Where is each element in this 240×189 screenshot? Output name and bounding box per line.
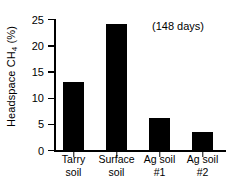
y-axis-tick: 25 (48, 19, 54, 20)
x-axis-category-line: #2 (187, 166, 219, 179)
y-axis-tick-label: 25 (32, 14, 44, 25)
x-axis-category-line: Ag soil (144, 153, 176, 166)
y-axis-label-subscript: 4 (10, 46, 19, 51)
x-axis-category-line: Surface (98, 153, 134, 166)
x-axis-category-line: soil (98, 166, 134, 179)
y-axis-tick-label: 0 (38, 145, 44, 156)
y-axis-tick: 5 (48, 124, 54, 125)
y-axis-tick: 20 (48, 45, 54, 46)
bar-1 (63, 82, 84, 150)
x-axis-category-line: #1 (144, 166, 176, 179)
x-axis-category-label: Tarrysoil (62, 153, 85, 178)
y-axis-label-container: Headspace CH4 (%) (0, 0, 22, 152)
x-axis-category-line: soil (62, 166, 85, 179)
x-axis-category-line: Tarry (62, 153, 85, 166)
plot-area: 0510152025 (54, 19, 226, 150)
bar-3 (149, 118, 170, 150)
y-axis-tick-label: 15 (32, 67, 44, 78)
x-axis-category-label: Ag soil#2 (187, 153, 219, 178)
y-axis-tick: 15 (48, 71, 54, 72)
bar-2 (106, 24, 127, 150)
y-axis-label-main: Headspace CH (5, 51, 17, 127)
y-axis-line (54, 19, 56, 150)
bar-chart-figure: Headspace CH4 (%) 0510152025 TarrysoilSu… (0, 0, 240, 189)
bar-4 (192, 132, 213, 150)
y-axis-label: Headspace CH4 (%) (6, 26, 17, 127)
y-axis-tick-label: 20 (32, 40, 44, 51)
y-axis-tick-label: 5 (38, 119, 44, 130)
y-axis-tick: 10 (48, 98, 54, 99)
y-axis-label-unit: (%) (5, 26, 17, 47)
days-annotation: (148 days) (152, 21, 204, 32)
x-axis-category-label: Ag soil#1 (144, 153, 176, 178)
y-axis-tick: 0 (48, 150, 54, 151)
x-axis-line (54, 150, 226, 152)
x-axis-category-line: Ag soil (187, 153, 219, 166)
y-axis-tick-label: 10 (32, 93, 44, 104)
x-axis-category-label: Surfacesoil (98, 153, 134, 178)
